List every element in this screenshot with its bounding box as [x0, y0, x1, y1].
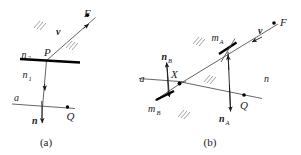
panel-b-label-vector-n-a: n A — [219, 113, 230, 126]
panel-a-ray-group — [42, 18, 96, 119]
panel-a-label-q: Q — [67, 110, 75, 122]
panel-b-hatch-upper — [193, 37, 205, 46]
panel-b-vector-n-a-sub: A — [225, 119, 230, 126]
panel-a-ray-direction-arrow-upper — [84, 24, 89, 29]
panel-b-baseline-a — [139, 79, 186, 83]
panel-b-hatch-lower — [178, 110, 190, 119]
panel-b-mirror-a-base: m — [212, 32, 219, 43]
panel-b-label-line-a: a — [140, 73, 145, 84]
panel-a-caption: (a) — [40, 136, 53, 149]
panel-b-caption: (b) — [204, 136, 217, 149]
panel-b-vector-n-b-sub: B — [168, 57, 172, 64]
panel-b-vector-n-a-base: n — [219, 113, 225, 124]
panel-a-label-line-a: a — [14, 92, 19, 103]
panel-a: F P Q v n n 2 n 1 a (a) — [12, 7, 96, 149]
panel-b-mirror-b-segment — [156, 91, 174, 100]
panel-a-index-lower-sub: 1 — [29, 75, 32, 82]
panel-a-hatch-upper — [34, 21, 46, 30]
panel-b-mirror-b-base: m — [148, 103, 155, 114]
figure-root: F P Q v n n 2 n 1 a (a) — [0, 0, 301, 155]
panel-a-baseline-a — [12, 104, 75, 109]
panel-b-hatch-middle — [204, 75, 216, 84]
panel-a-label-f: F — [83, 7, 91, 19]
panel-a-index-upper-base: n — [22, 49, 27, 60]
panel-b-normal-arrow-a-down — [229, 85, 230, 112]
panel-b-ray-direction-arrow — [252, 37, 262, 42]
panel-a-point-q-dot — [66, 105, 69, 108]
panel-b-label-vector-v: v — [258, 25, 263, 36]
panel-b-label-x: X — [170, 68, 179, 80]
panel-b-point-f-dot — [272, 21, 276, 25]
panel-a-label-p: P — [43, 46, 51, 58]
panel-b-label-mirror-b: m B — [148, 103, 161, 116]
optics-diagram: F P Q v n n 2 n 1 a (a) — [0, 0, 301, 155]
panel-b-point-x-dot — [178, 82, 182, 86]
panel-b-mirror-a-sub: A — [219, 38, 224, 45]
panel-b-label-q: Q — [240, 99, 248, 111]
panel-b-normal-arrow-a-up — [228, 55, 229, 70]
panel-b-mirror-b-sub: B — [157, 109, 161, 116]
panel-b-baseline-right — [181, 82, 262, 99]
panel-b: F X Q v n A n B m A m B n a (b) — [139, 16, 287, 149]
panel-a-label-vector-v: v — [56, 26, 61, 37]
panel-a-index-lower-base: n — [23, 69, 28, 80]
panel-b-label-mirror-a: m A — [212, 32, 224, 45]
panel-b-vector-n-b-base: n — [162, 51, 168, 62]
panel-b-point-q-dot — [242, 93, 246, 97]
panel-b-label-vector-n-b: n B — [162, 51, 173, 64]
panel-a-label-index-lower: n 1 — [23, 69, 32, 82]
panel-b-label-index-n: n — [264, 73, 269, 84]
panel-a-label-vector-n: n — [32, 115, 38, 126]
panel-a-normal-vector-arrow — [42, 101, 43, 123]
panel-b-label-f: F — [279, 16, 287, 28]
panel-a-ray-upper — [47, 18, 96, 61]
